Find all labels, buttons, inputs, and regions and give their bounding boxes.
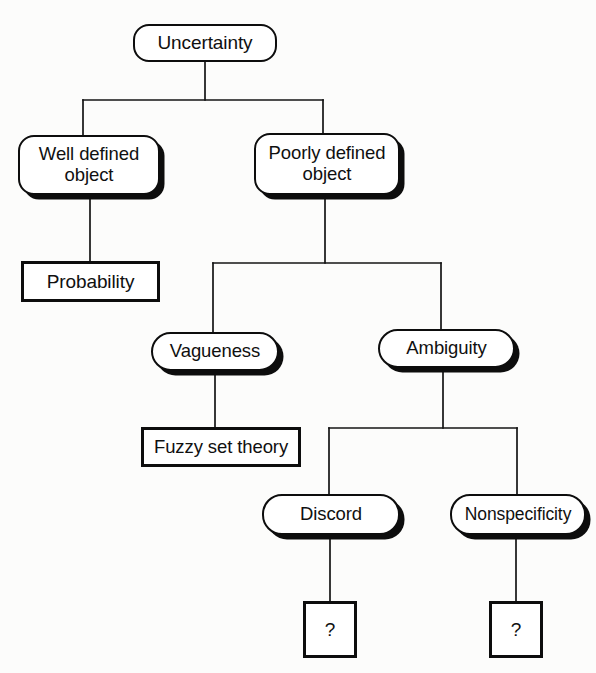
- node-fuzzy-set-theory-label: Fuzzy set theory: [148, 437, 294, 458]
- node-probability-label: Probability: [41, 271, 141, 292]
- node-ambiguity[interactable]: Ambiguity: [378, 329, 515, 368]
- node-well-defined-object-label: Well defined object: [33, 144, 145, 185]
- node-discord[interactable]: Discord: [262, 494, 400, 535]
- node-ambiguity-label: Ambiguity: [400, 338, 492, 359]
- node-nonspecificity-question-label: ?: [505, 619, 527, 640]
- node-poorly-defined-object[interactable]: Poorly defined object: [254, 133, 400, 195]
- node-vagueness-label: Vagueness: [164, 341, 266, 362]
- node-nonspecificity-question[interactable]: ?: [489, 601, 543, 658]
- node-discord-question[interactable]: ?: [303, 601, 357, 658]
- node-poorly-defined-object-label: Poorly defined object: [263, 143, 392, 184]
- node-fuzzy-set-theory[interactable]: Fuzzy set theory: [141, 427, 301, 467]
- node-discord-question-label: ?: [319, 619, 341, 640]
- node-nonspecificity[interactable]: Nonspecificity: [450, 494, 586, 535]
- node-vagueness[interactable]: Vagueness: [151, 332, 279, 371]
- node-probability[interactable]: Probability: [21, 261, 160, 302]
- node-nonspecificity-label: Nonspecificity: [459, 505, 578, 525]
- node-well-defined-object[interactable]: Well defined object: [18, 135, 160, 195]
- node-uncertainty[interactable]: Uncertainty: [133, 24, 277, 62]
- node-uncertainty-label: Uncertainty: [152, 32, 259, 53]
- diagram-canvas: Uncertainty Well defined object Poorly d…: [0, 0, 596, 673]
- node-discord-label: Discord: [294, 504, 368, 525]
